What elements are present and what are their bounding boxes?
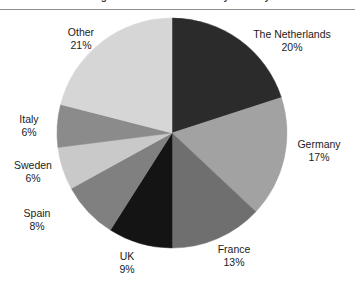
slice-value-france: 13% bbox=[203, 256, 265, 269]
slice-value-spain: 8% bbox=[8, 220, 66, 233]
slice-name-germany: Germany bbox=[286, 138, 352, 151]
slice-label-spain: Spain 8% bbox=[8, 207, 66, 232]
slice-name-uk: UK bbox=[105, 250, 149, 263]
slice-label-other: Other 21% bbox=[46, 26, 116, 51]
slice-value-italy: 6% bbox=[0, 126, 58, 139]
header-divider-rule bbox=[0, 9, 355, 10]
pie-chart: The Netherlands 20% Germany 17% France 1… bbox=[0, 11, 355, 288]
slice-value-other: 21% bbox=[46, 39, 116, 52]
slice-name-sweden: Sweden bbox=[0, 159, 66, 172]
slice-name-the-netherlands: The Netherlands bbox=[233, 28, 351, 41]
slice-name-france: France bbox=[203, 243, 265, 256]
slice-name-italy: Italy bbox=[0, 113, 58, 126]
slice-value-germany: 17% bbox=[286, 151, 352, 164]
slice-value-the-netherlands: 20% bbox=[233, 41, 351, 54]
slice-label-germany: Germany 17% bbox=[286, 138, 352, 163]
slice-name-other: Other bbox=[46, 26, 116, 39]
slice-label-france: France 13% bbox=[203, 243, 265, 268]
slice-name-spain: Spain bbox=[8, 207, 66, 220]
slice-label-sweden: Sweden 6% bbox=[0, 159, 66, 184]
slice-value-uk: 9% bbox=[105, 263, 149, 276]
cropped-chart-title: Diagram 5.1: Market share by country bbox=[0, 0, 355, 2]
slice-label-uk: UK 9% bbox=[105, 250, 149, 275]
slice-value-sweden: 6% bbox=[0, 172, 66, 185]
slice-label-the-netherlands: The Netherlands 20% bbox=[233, 28, 351, 53]
slice-label-italy: Italy 6% bbox=[0, 113, 58, 138]
header-band: Diagram 5.1: Market share by country bbox=[0, 0, 355, 11]
